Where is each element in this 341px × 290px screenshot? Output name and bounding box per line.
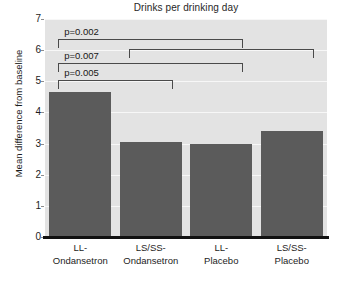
y-tick-label: 3 — [1, 138, 41, 149]
x-tick-label-line: LL- — [186, 242, 257, 255]
y-tick-label: 1 — [1, 200, 41, 211]
x-tick-label: LS/SS-Ondansetron — [116, 242, 187, 267]
y-tick-label: 5 — [1, 75, 41, 86]
y-tick-label: 6 — [1, 44, 41, 55]
y-tick-label: 7 — [1, 13, 41, 24]
bracket-tick-right — [172, 80, 173, 89]
y-tick-mark — [41, 50, 44, 51]
p-value-label: p=0.007 — [64, 50, 99, 61]
x-tick-label: LL-Placebo — [186, 242, 257, 267]
bracket-tick-right — [313, 49, 314, 58]
x-tick-label-line: Ondansetron — [45, 255, 116, 268]
bracket-tick-left — [58, 39, 59, 48]
y-tick-mark — [41, 175, 44, 176]
x-axis-line — [43, 236, 329, 239]
y-tick-mark — [41, 144, 44, 145]
p-value-label: p=0.005 — [64, 67, 99, 78]
y-tick-mark — [41, 206, 44, 207]
x-tick-label-line: Ondansetron — [116, 255, 187, 268]
y-tick-mark — [41, 19, 44, 20]
bracket-bar — [129, 49, 314, 50]
bracket-tick-left — [58, 63, 59, 72]
gridline — [45, 19, 327, 20]
bar — [120, 142, 182, 237]
x-tick-label: LL-Ondansetron — [45, 242, 116, 267]
x-tick-label-line: LS/SS- — [116, 242, 187, 255]
y-tick-mark — [41, 112, 44, 113]
bracket-tick-right — [242, 39, 243, 48]
y-tick-label: 4 — [1, 106, 41, 117]
x-tick-label-line: Placebo — [186, 255, 257, 268]
y-tick-mark — [41, 81, 44, 82]
x-tick-label: LS/SS-Placebo — [257, 242, 328, 267]
bar — [190, 144, 252, 237]
x-tick-label-line: LL- — [45, 242, 116, 255]
bracket-tick-left — [129, 49, 130, 58]
bracket-tick-left — [58, 80, 59, 89]
bar-chart-figure: Drinks per drinking day Mean difference … — [0, 0, 341, 290]
bracket-tick-right — [242, 63, 243, 72]
x-tick-label-line: LS/SS- — [257, 242, 328, 255]
p-value-label: p=0.002 — [64, 26, 99, 37]
plot-area: p=0.002p=0.007p=0.005 — [45, 19, 327, 237]
x-tick-label-line: Placebo — [257, 255, 328, 268]
bracket-bar — [58, 39, 243, 40]
y-axis-ticks: 01234567 — [0, 19, 41, 237]
bar — [261, 131, 323, 237]
significance-bracket — [58, 39, 243, 48]
significance-bracket — [58, 80, 173, 89]
bar — [49, 92, 111, 237]
bracket-bar — [58, 80, 173, 81]
y-tick-label: 0 — [1, 231, 41, 242]
y-tick-label: 2 — [1, 169, 41, 180]
chart-title: Drinks per drinking day — [45, 2, 327, 13]
x-axis-labels: LL-OndansetronLS/SS-OndansetronLL-Placeb… — [45, 242, 327, 282]
bracket-bar — [58, 63, 243, 64]
significance-bracket — [129, 49, 314, 58]
